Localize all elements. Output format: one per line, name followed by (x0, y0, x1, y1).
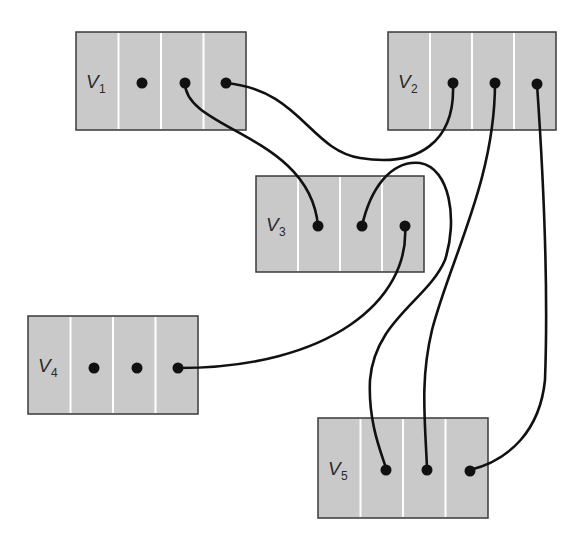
pointer-dot-icon (422, 465, 433, 476)
pointer-dot-icon (465, 466, 476, 477)
pointer-dot-icon (448, 78, 459, 89)
pointer-dot-icon (357, 221, 368, 232)
pointer-dot-icon (180, 78, 191, 89)
pointer-dot-icon (89, 363, 100, 374)
pointer-diagram: V1V2V3V4V5 (0, 0, 582, 540)
pointer-dot-icon (221, 78, 232, 89)
node-v4: V4 (28, 316, 198, 414)
pointer-dot-icon (381, 465, 392, 476)
node-label-subscript: 3 (279, 225, 286, 239)
node-label-subscript: 4 (51, 366, 58, 380)
node-label-subscript: 5 (341, 469, 348, 483)
pointer-dot-icon (137, 78, 148, 89)
pointer-dot-icon (400, 221, 411, 232)
pointer-dot-icon (532, 79, 543, 90)
node-label-subscript: 2 (411, 82, 418, 96)
dots-layer (89, 78, 543, 477)
nodes-layer: V1V2V3V4V5 (28, 32, 556, 518)
pointer-dot-icon (132, 363, 143, 374)
pointer-dot-icon (173, 363, 184, 374)
node-label-subscript: 1 (99, 82, 106, 96)
node-v3: V3 (256, 176, 424, 272)
pointer-dot-icon (490, 78, 501, 89)
node-v2: V2 (388, 32, 556, 130)
edges-layer (178, 83, 546, 470)
pointer-dot-icon (313, 221, 324, 232)
pointer-edge-v2-cell3-to-v5-cell3 (470, 84, 546, 470)
node-v5: V5 (318, 418, 488, 518)
node-v1: V1 (76, 32, 246, 130)
